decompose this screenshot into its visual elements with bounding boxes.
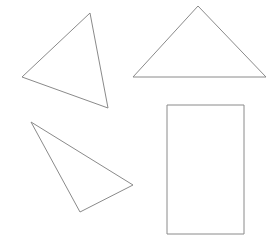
rectangle-lower-right	[167, 105, 244, 234]
triangle-upper-right	[133, 6, 266, 77]
triangle-lower-left	[31, 122, 133, 212]
triangle-upper-left	[22, 13, 108, 108]
shapes-canvas-container	[0, 0, 279, 249]
shapes-canvas	[0, 0, 279, 249]
